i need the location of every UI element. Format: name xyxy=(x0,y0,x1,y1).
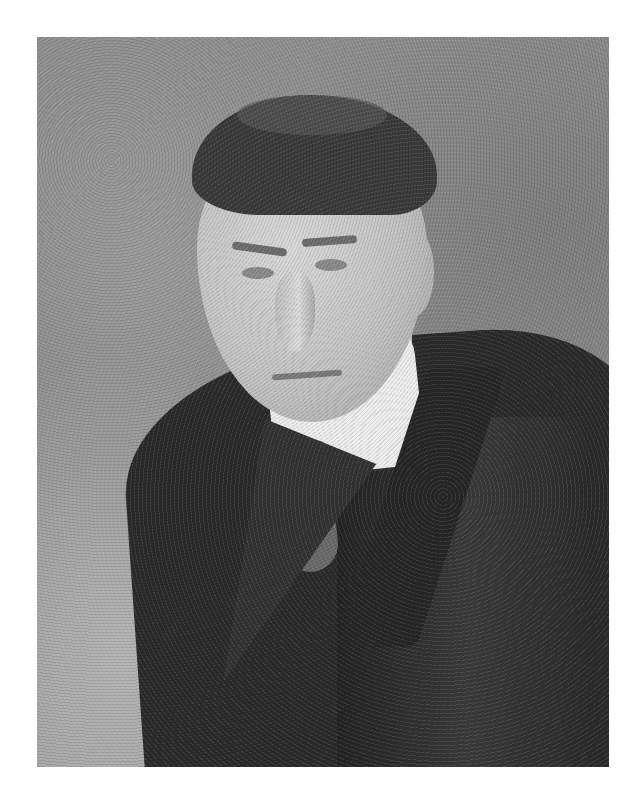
portrait-photo xyxy=(37,37,609,767)
film-grain xyxy=(37,37,609,767)
